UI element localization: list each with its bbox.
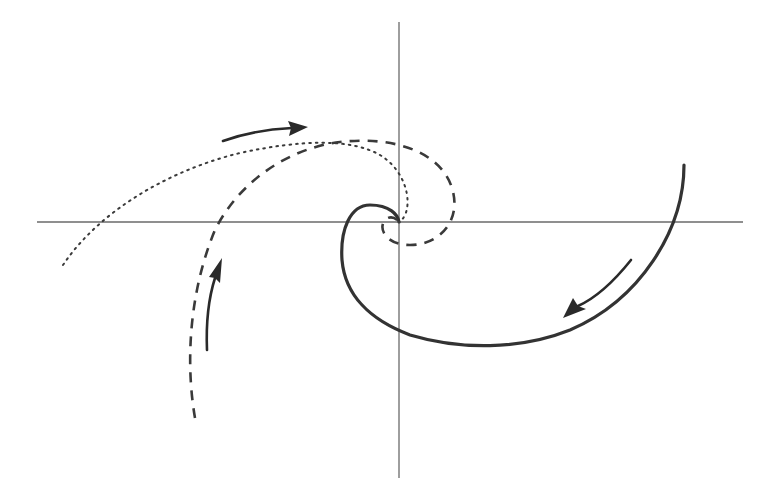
dashed-spiral-trajectory — [190, 141, 454, 418]
dotted-spiral-trajectory — [63, 143, 408, 265]
arrow-right-icon — [223, 121, 308, 141]
phase-portrait-diagram — [0, 0, 767, 499]
arrow-up-icon — [207, 258, 222, 350]
arrow-down-left-icon — [563, 260, 631, 318]
solid-spiral-trajectory — [342, 165, 684, 346]
